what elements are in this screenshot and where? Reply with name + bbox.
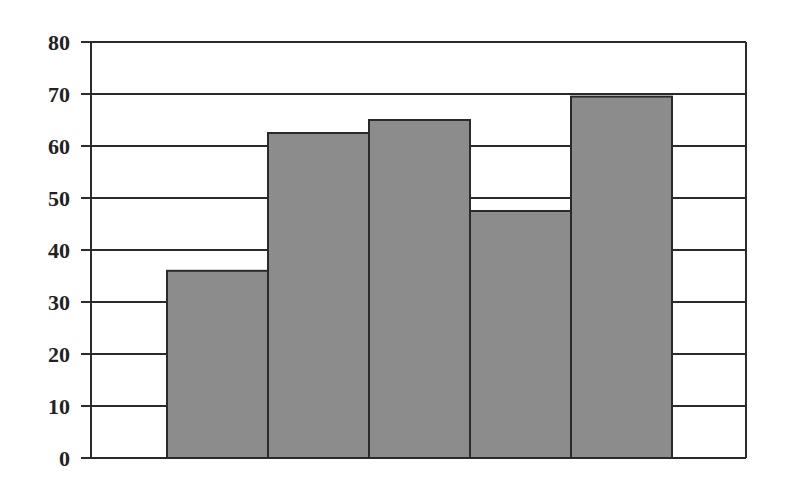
- y-tick-label: 20: [48, 342, 70, 367]
- y-tick-label: 30: [48, 290, 70, 315]
- bar: [470, 211, 571, 458]
- y-tick-label: 40: [48, 238, 70, 263]
- bar-chart: 01020304050607080: [0, 0, 785, 495]
- bar: [369, 120, 470, 458]
- bar: [167, 271, 268, 458]
- y-tick-label: 10: [48, 394, 70, 419]
- y-tick-label: 0: [59, 446, 70, 471]
- y-tick-label: 60: [48, 134, 70, 159]
- bars: [167, 97, 672, 458]
- y-tick-label: 80: [48, 30, 70, 55]
- bar: [268, 133, 369, 458]
- y-tick-label: 50: [48, 186, 70, 211]
- y-axis-labels: 01020304050607080: [48, 30, 70, 471]
- bar: [571, 97, 672, 458]
- y-tick-label: 70: [48, 82, 70, 107]
